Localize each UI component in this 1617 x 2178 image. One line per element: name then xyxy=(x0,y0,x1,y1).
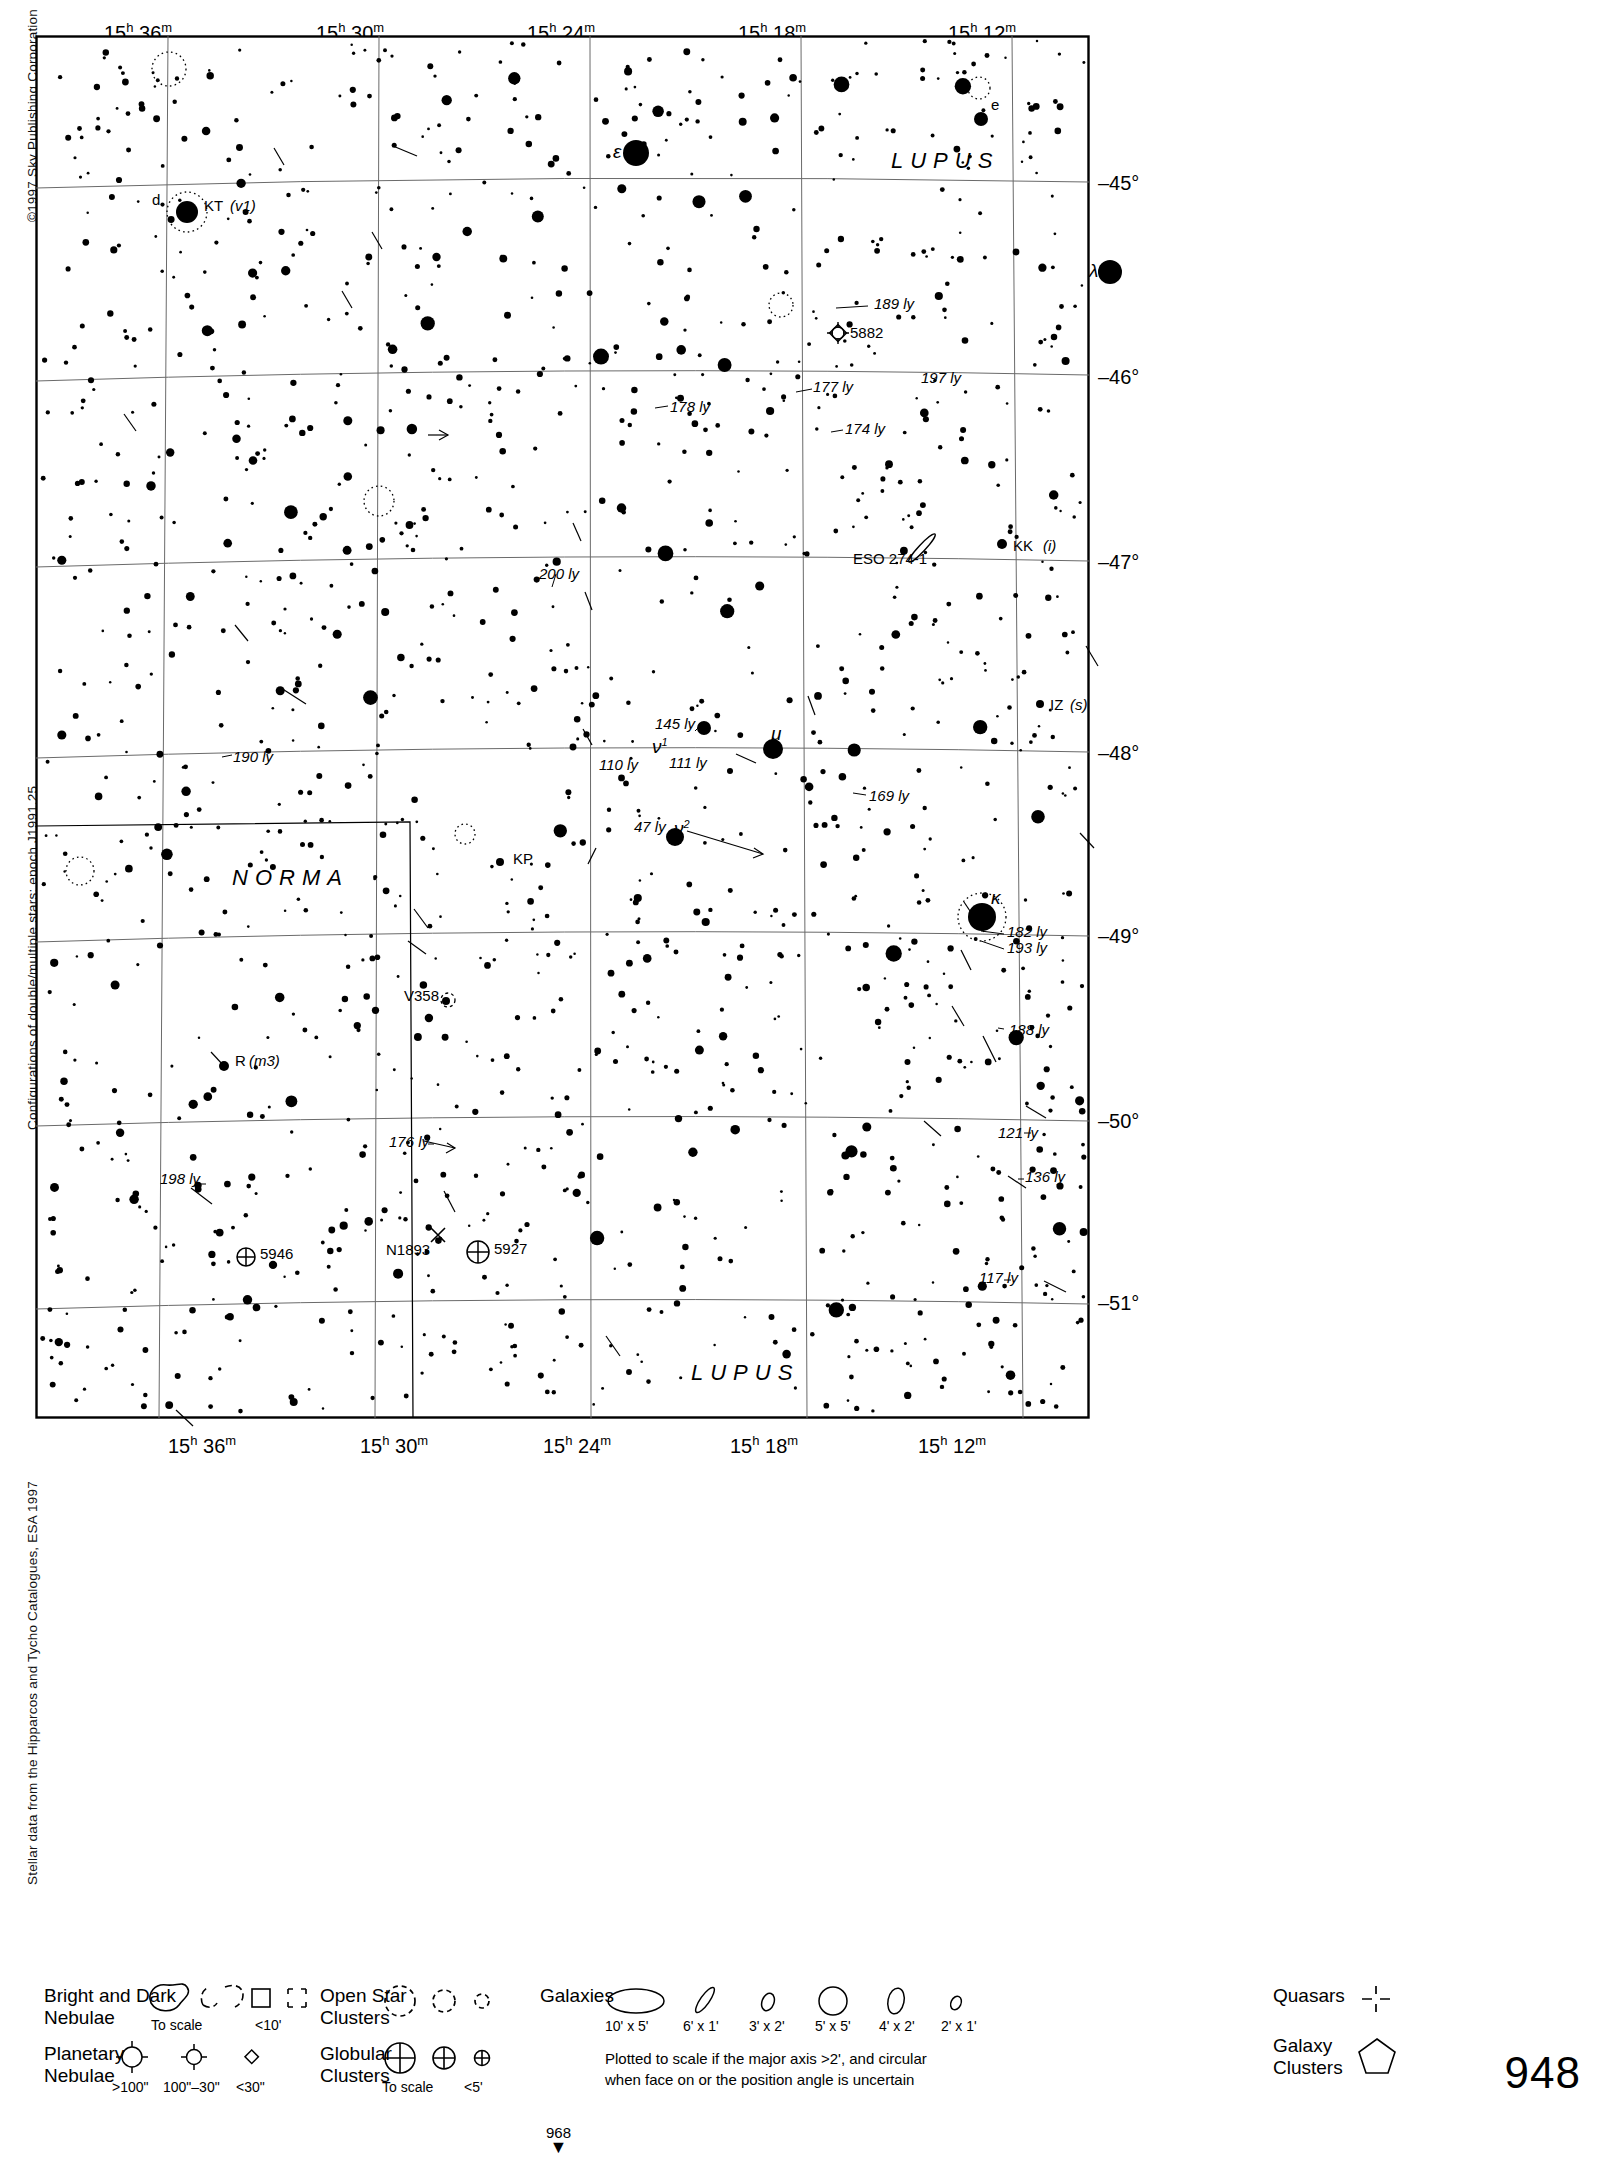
dec-label-47: –47° xyxy=(1098,551,1139,574)
chart-label-198-ly-38: 198 ly xyxy=(160,1170,200,1187)
legend-caption-galaxy-3: 5' x 5' xyxy=(815,2018,851,2034)
chart-label-kt-1: KT xyxy=(204,197,223,214)
chart-label-110-ly-22: 110 ly xyxy=(599,756,638,773)
chart-label--i--13: (i) xyxy=(1043,537,1056,554)
planetary-nebula-symbols xyxy=(110,2037,340,2079)
open-cluster-large-icon xyxy=(385,1986,415,2016)
bright-nebula-small-icon xyxy=(252,1989,270,2007)
legend-caption-galaxy-5: 2' x 1' xyxy=(941,2018,977,2034)
chart-label-145-ly-18: 145 ly xyxy=(655,715,695,732)
chart-label-47-ly-25: 47 ly xyxy=(634,818,666,835)
chart-label---20: μ xyxy=(771,723,781,745)
ra-label-bottom-1: 15h 30m xyxy=(360,1433,428,1458)
chart-label-188-ly-32: 188 ly xyxy=(1009,1021,1049,1038)
chart-label---5: λ xyxy=(1089,260,1098,282)
legend-caption-globular-to-scale: To scale xyxy=(382,2079,433,2095)
chart-label--s--17: (s) xyxy=(1070,696,1088,713)
ra-label-bottom-2: 15h 24m xyxy=(543,1433,611,1458)
dec-label-45: –45° xyxy=(1098,172,1139,195)
chart-label-177-ly-9: 177 ly xyxy=(813,378,853,395)
chart-label-189-ly-6: 189 ly xyxy=(874,295,914,312)
globular-cluster-5927 xyxy=(467,1241,489,1263)
constellation-name-lupus-2: LUPUS xyxy=(691,1360,799,1386)
legend-caption-galaxy-4: 4' x 2' xyxy=(879,2018,915,2034)
chart-border xyxy=(37,37,1089,1418)
legend-label-quasars: Quasars xyxy=(1273,1985,1345,2007)
chart-label--v1--2: (v1) xyxy=(230,197,256,214)
quasar-symbol xyxy=(1358,1981,1404,2015)
chart-label-v358-31: V358 xyxy=(404,987,439,1004)
legend-label-galaxy-clusters: Galaxy Clusters xyxy=(1273,2035,1343,2079)
star-chart[interactable] xyxy=(36,36,1089,1418)
chart-label-111-ly-23: 111 ly xyxy=(669,754,707,771)
legend-caption-planetary-mid: 100"–30" xyxy=(163,2079,220,2095)
legend-caption-galaxy-2: 3' x 2' xyxy=(749,2018,785,2034)
dec-label-50: –50° xyxy=(1098,1110,1139,1133)
chart-label-d-0: d xyxy=(152,191,160,208)
chart-label-178-ly-10: 178 ly xyxy=(670,398,710,415)
chart-label---4: ε xyxy=(613,141,621,163)
legend-caption-nebula-to-scale: To scale xyxy=(151,2017,202,2033)
legend-caption-globular-lt5: <5' xyxy=(464,2079,483,2095)
ra-label-bottom-3: 15h 18m xyxy=(730,1433,798,1458)
planetary-large-icon xyxy=(122,2047,142,2067)
continuation-reference: 968 ▼ xyxy=(546,2124,571,2153)
legend-caption-nebula-lt10: <10' xyxy=(255,2017,281,2033)
constellation-name-lupus-0: LUPUS xyxy=(891,148,999,174)
chart-label-197-ly-8: 197 ly xyxy=(921,369,961,386)
dec-label-48: –48° xyxy=(1098,742,1139,765)
ra-label-bottom-0: 15h 36m xyxy=(168,1433,236,1458)
galaxy-icon-2x1 xyxy=(949,1995,964,2012)
ra-label-bottom-4: 15h 12m xyxy=(918,1433,986,1458)
galaxy-icon-4x2 xyxy=(885,1987,906,2016)
legend: Bright and Dark Nebulae To scale <10' Pl… xyxy=(0,1975,1617,2178)
chart-label-5882-7: 5882 xyxy=(850,324,883,341)
note-data-source: Stellar data from the Hipparcos and Tych… xyxy=(25,1481,40,1885)
chart-label-182-ly-29: 182 ly xyxy=(1007,923,1047,940)
constellation-name-norma-1: NORMA xyxy=(232,865,349,891)
chart-label-iz-16: IZ xyxy=(1050,696,1063,713)
chart-label-n1893-41: N1893 xyxy=(386,1241,430,1258)
globular-cluster-symbols xyxy=(378,2037,508,2079)
chart-label-kp-27: KP xyxy=(513,850,533,867)
quasar-icon xyxy=(1362,1986,1390,2012)
sky-plot xyxy=(36,36,1089,1418)
galaxy-cluster-symbol xyxy=(1355,2033,1411,2079)
galaxy-icon-5x5 xyxy=(819,1987,847,2015)
galaxy-icon-10x5 xyxy=(608,1989,664,2013)
legend-caption-galaxy-1: 6' x 1' xyxy=(683,2018,719,2034)
galaxy-cluster-icon xyxy=(1359,2039,1395,2073)
galaxy-icon-3x2 xyxy=(759,1991,776,2012)
chart-label-174-ly-11: 174 ly xyxy=(845,420,885,437)
dark-nebula-icon-a xyxy=(201,1987,209,2005)
chart-label-117-ly-39: 117 ly xyxy=(979,1269,1018,1286)
legend-caption-galaxy-0: 10' x 5' xyxy=(605,2018,648,2034)
planetary-medium-icon xyxy=(187,2050,202,2065)
bright-nebula-icon xyxy=(150,1984,189,2011)
chart-label-136-ly-37: 136 ly xyxy=(1025,1168,1065,1185)
chart-label---19: ν1 xyxy=(652,736,668,758)
dec-label-46: –46° xyxy=(1098,366,1139,389)
chart-label--m3--34: (m3) xyxy=(249,1052,280,1069)
legend-caption-planetary-gt100: >100" xyxy=(112,2079,149,2095)
dark-nebula-small-icon xyxy=(288,1989,306,2007)
legend-caption-planetary-lt30: <30" xyxy=(236,2079,265,2095)
chart-label-121-ly-35: 121 ly xyxy=(998,1124,1038,1141)
legend-label-galaxies: Galaxies xyxy=(540,1985,614,2007)
chart-label-190-ly-21: 190 ly xyxy=(233,748,273,765)
dec-label-49: –49° xyxy=(1098,925,1139,948)
chart-label-169-ly-24: 169 ly xyxy=(869,787,909,804)
chart-label-176-ly-36: 176 ly xyxy=(389,1133,429,1150)
chart-label---26: ν2 xyxy=(674,818,690,840)
chart-label-5927-42: 5927 xyxy=(494,1240,527,1257)
chart-label-r-33: R xyxy=(235,1052,246,1069)
open-cluster-symbols xyxy=(378,1979,508,2021)
globular-cluster-5946 xyxy=(237,1248,255,1266)
page-number: 948 xyxy=(1505,2048,1581,2098)
open-cluster-medium-icon xyxy=(433,1990,455,2012)
continuation-arrow-icon: ▼ xyxy=(546,2141,571,2153)
planetary-small-icon xyxy=(245,2050,258,2063)
dark-nebula-icon-b xyxy=(203,2003,217,2007)
chart-label-200-ly-15: 200 ly xyxy=(539,565,579,582)
galaxy-scale-note: Plotted to scale if the major axis >2', … xyxy=(605,2048,927,2090)
